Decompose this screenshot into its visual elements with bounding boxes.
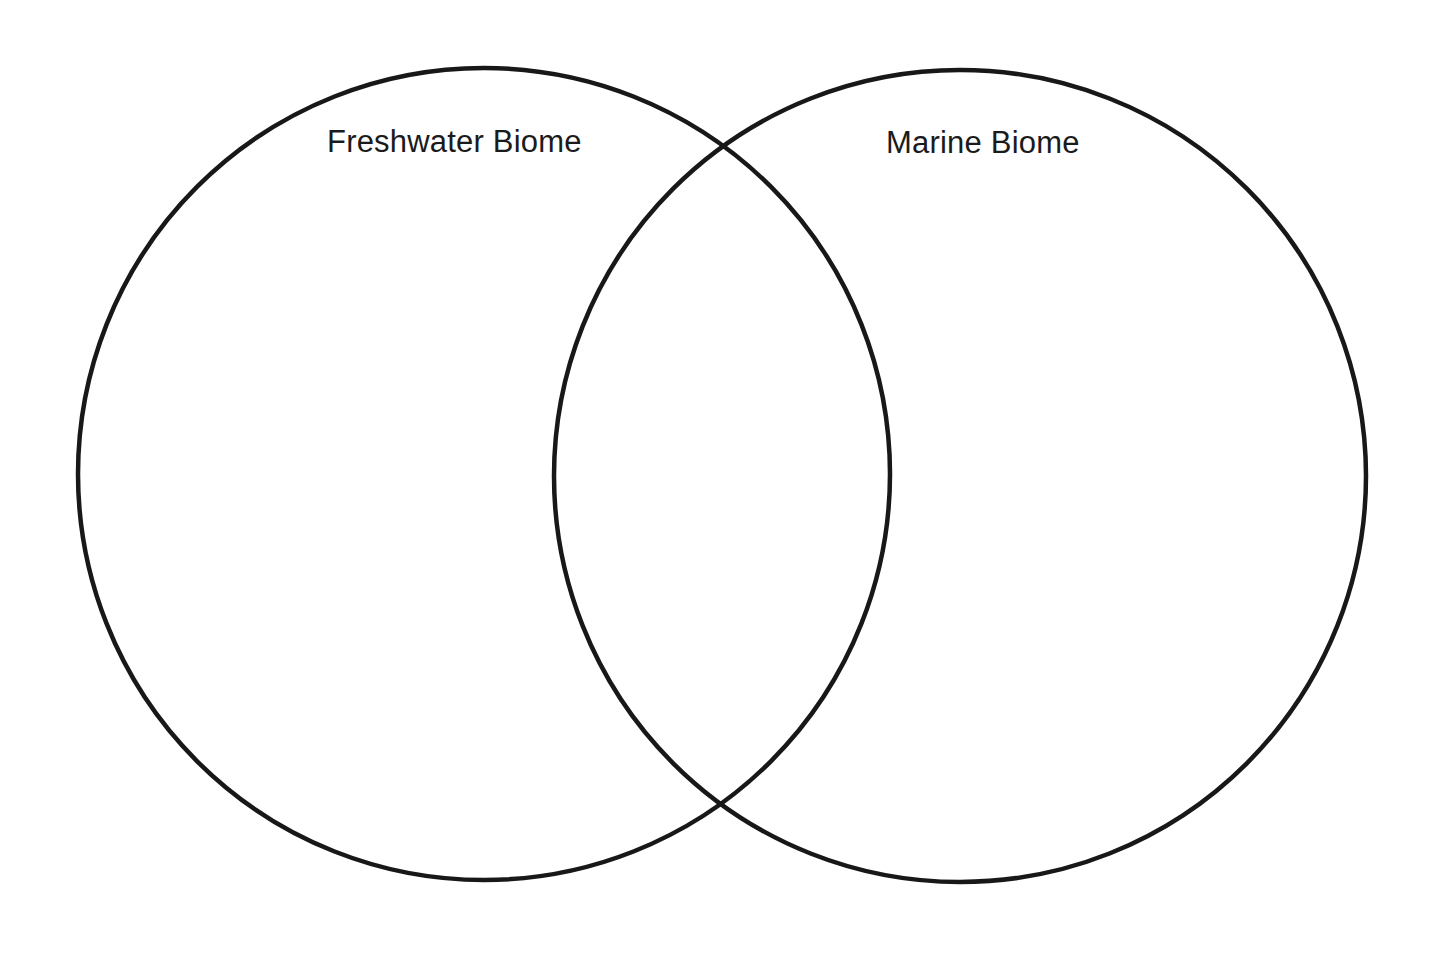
venn-label-right: Marine Biome: [886, 127, 1080, 158]
venn-region-left-only[interactable]: [120, 250, 500, 770]
venn-region-overlap[interactable]: [600, 220, 840, 740]
worksheet-page: Freshwater Biome Marine Biome: [0, 0, 1432, 963]
venn-region-right-only[interactable]: [950, 250, 1320, 770]
venn-label-left: Freshwater Biome: [327, 126, 582, 157]
